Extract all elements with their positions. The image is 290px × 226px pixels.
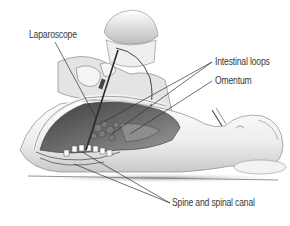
abdominal-cavity — [34, 96, 180, 153]
label-laparoscope: Laparoscope — [29, 29, 77, 40]
label-omentum: Omentum — [215, 75, 252, 86]
floor-shadow — [28, 173, 290, 183]
label-intestinal-loops: Intestinal loops — [215, 56, 270, 67]
laparoscopy-diagram: Laparoscope Intestinal loops Omentum Spi… — [0, 0, 290, 226]
label-spine-and-spinal-canal: Spine and spinal canal — [172, 197, 255, 208]
